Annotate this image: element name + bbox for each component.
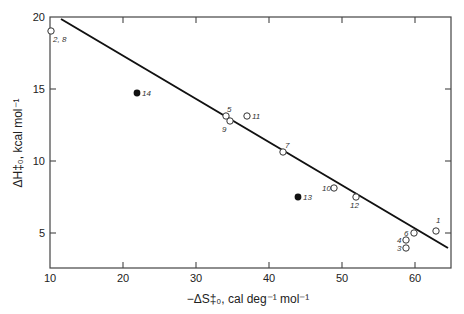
data-point — [353, 194, 359, 200]
svg-text:30: 30 — [190, 272, 202, 284]
y-axis-label: ΔH‡₀, kcal mol⁻¹ — [11, 98, 25, 187]
svg-text:11: 11 — [252, 112, 260, 121]
y-ticks — [50, 89, 451, 233]
data-point — [48, 28, 54, 34]
svg-text:9: 9 — [222, 125, 227, 134]
point-labels: 2, 8 5 9 11 7 10 12 6 4 3 1 14 13 — [52, 35, 440, 253]
scatter-chart: 10 20 30 40 50 60 5 10 15 20 −ΔS‡₀, cal … — [0, 0, 464, 314]
data-point — [411, 230, 417, 236]
data-point — [331, 185, 337, 191]
data-point — [134, 90, 141, 97]
open-circle-points — [48, 28, 439, 251]
svg-text:3: 3 — [397, 244, 402, 253]
svg-text:40: 40 — [263, 272, 275, 284]
svg-text:20: 20 — [33, 11, 45, 23]
svg-text:12: 12 — [350, 201, 359, 210]
data-point — [227, 118, 233, 124]
svg-text:6: 6 — [404, 229, 409, 238]
svg-text:14: 14 — [142, 89, 151, 98]
svg-text:2, 8: 2, 8 — [52, 35, 67, 44]
data-point — [433, 228, 439, 234]
data-point — [403, 245, 409, 251]
svg-text:13: 13 — [303, 193, 312, 202]
fit-line — [61, 19, 448, 248]
data-point — [295, 194, 302, 201]
x-tick-labels: 10 20 30 40 50 60 — [44, 272, 421, 284]
svg-text:1: 1 — [436, 216, 440, 225]
svg-text:20: 20 — [117, 272, 129, 284]
data-point — [244, 113, 250, 119]
y-tick-labels: 5 10 15 20 — [33, 11, 45, 239]
svg-text:10: 10 — [322, 184, 331, 193]
svg-text:7: 7 — [285, 141, 290, 150]
svg-text:10: 10 — [44, 272, 56, 284]
filled-circle-points — [134, 90, 302, 201]
svg-text:60: 60 — [409, 272, 421, 284]
svg-text:10: 10 — [33, 155, 45, 167]
svg-text:50: 50 — [336, 272, 348, 284]
x-axis-label: −ΔS‡₀, cal deg⁻¹ mol⁻¹ — [187, 292, 310, 306]
svg-text:5: 5 — [227, 105, 232, 114]
svg-text:15: 15 — [33, 83, 45, 95]
plot-frame — [50, 17, 451, 268]
svg-text:5: 5 — [39, 227, 45, 239]
